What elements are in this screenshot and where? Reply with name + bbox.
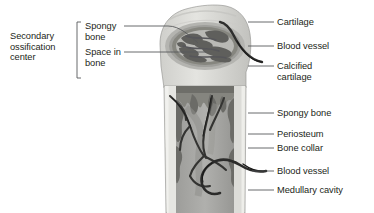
left-bracket: [77, 22, 81, 78]
label-bone-collar: Bone collar: [277, 143, 323, 154]
epiphysis-group: [160, 5, 262, 88]
figure-canvas: Secondaryossificationcenter Spongybone S…: [0, 0, 374, 213]
label-cartilage: Cartilage: [277, 17, 314, 28]
label-spongy-bone-epiphysis: Spongybone: [85, 21, 116, 42]
bone-illustration: [0, 0, 374, 213]
diaphysis-group: [164, 86, 266, 213]
label-space-in-bone: Space inbone: [85, 47, 121, 68]
label-medullary-cavity: Medullary cavity: [277, 185, 343, 196]
label-spongy-bone: Spongy bone: [277, 108, 331, 119]
label-blood-vessel-upper: Blood vessel: [277, 41, 329, 52]
calcified-cartilage-band: [176, 86, 234, 93]
label-secondary-ossification-center: Secondaryossificationcenter: [10, 31, 55, 63]
label-blood-vessel-lower: Blood vessel: [277, 166, 329, 177]
label-calcified-cartilage: Calcifiedcartilage: [277, 61, 312, 82]
right-leader-lines: [248, 22, 274, 190]
label-periosteum: Periosteum: [277, 129, 324, 140]
